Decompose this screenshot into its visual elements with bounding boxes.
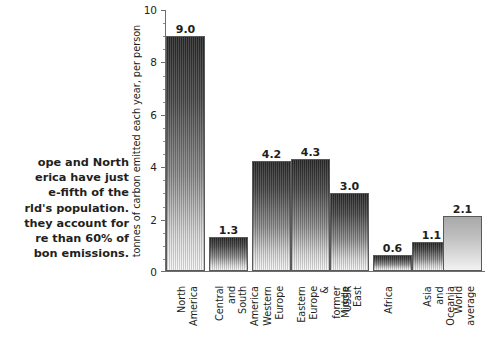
plot-area: 9.0 1.3 4.2 4.3 3.0 0.6 1.1 2.1 North Am… xyxy=(166,10,485,271)
x-axis-label-asia-and-oceania: Asia and Oceania xyxy=(422,286,457,326)
y-tick-label: 8 xyxy=(150,57,157,68)
bar-world-average: 2.1 xyxy=(443,216,482,271)
bar-central-south-america: 1.3 xyxy=(209,237,248,271)
bar-value-label: 0.6 xyxy=(383,243,403,254)
y-axis-tick-labels: 10 8 6 4 2 0 xyxy=(118,10,157,272)
x-axis-label-western-europe: Western Europe xyxy=(262,286,285,326)
bar-middle-east: 3.0 xyxy=(330,193,369,271)
y-tick-label: 4 xyxy=(150,162,157,173)
chart-figure: ope and North erica have just e-fifth of… xyxy=(0,0,485,350)
bar-value-label: 3.0 xyxy=(340,181,360,192)
bar-value-label: 2.1 xyxy=(453,204,473,215)
x-axis-label-north-america: North America xyxy=(176,286,199,326)
bar-value-label: 4.2 xyxy=(262,149,282,160)
bar-eastern-europe-former-ussr: 4.3 xyxy=(291,159,330,271)
y-tick-label: 6 xyxy=(150,110,157,121)
y-tick-label: 2 xyxy=(150,215,157,226)
bar-value-label: 1.3 xyxy=(219,225,239,236)
x-axis-label-africa: Africa xyxy=(383,286,395,314)
y-tick-label: 0 xyxy=(150,267,157,278)
x-axis-label-central-south-america: Central and South America xyxy=(214,286,260,326)
y-tick-label: 10 xyxy=(144,5,157,16)
figure-caption: ope and North erica have just e-fifth of… xyxy=(0,155,129,261)
bar-value-label: 1.1 xyxy=(422,230,442,241)
bar-western-europe: 4.2 xyxy=(252,161,291,271)
bar-africa: 0.6 xyxy=(373,255,412,271)
bar-value-label: 9.0 xyxy=(176,24,196,35)
x-axis-line xyxy=(165,271,485,272)
bar-north-america: 9.0 xyxy=(166,36,205,271)
x-axis-label-world-average: World average xyxy=(453,286,476,326)
bar-value-label: 4.3 xyxy=(301,147,321,158)
x-axis-label-middle-east: Middle East xyxy=(340,286,363,318)
